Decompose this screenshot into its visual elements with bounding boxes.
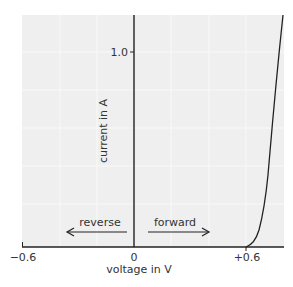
y-axis-label: current in A — [97, 98, 110, 163]
x-tick-label-neg: −0.6 — [10, 251, 37, 264]
x-axis-label: voltage in V — [106, 263, 172, 276]
plot-panel — [22, 15, 284, 247]
x-tick-label-pos: +0.6 — [234, 251, 261, 264]
forward-label: forward — [154, 216, 196, 229]
y-tick-label-1: 1.0 — [111, 46, 129, 59]
reverse-label: reverse — [79, 216, 121, 229]
diode-iv-chart: 1.0 −0.6 0 +0.6 voltage in V current in … — [0, 0, 293, 287]
